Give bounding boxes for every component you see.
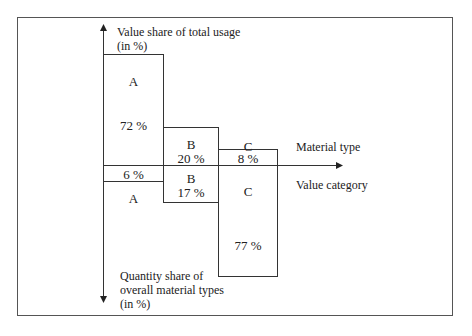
box-c-bottom-value: 77 % [218,238,278,253]
y-axis-bottom-label-line1: Quantity share of [120,269,203,283]
box-b-bottom-value: 17 % [163,185,219,200]
box-c-bottom-category: C [218,184,278,199]
arrow-up-icon [99,24,108,32]
y-axis-top-label-line1: Value share of total usage [117,25,240,39]
box-b-bottom-category: B [163,171,219,186]
y-axis-top-label-line2: (in %) [117,39,147,53]
x-axis-label-material-type: Material type [296,140,360,154]
box-a-value-share [103,54,164,166]
y-axis-bottom-label-line3: (in %) [120,297,150,311]
arrow-down-icon [99,296,108,304]
box-b-top-value: 20 % [163,151,219,166]
arrow-right-icon [336,161,344,170]
box-a-top-value: 72 % [103,118,164,133]
box-a-bottom-category: A [103,191,164,206]
y-axis-bottom-label-line2: overall material types [120,283,224,297]
box-c-quantity-share [218,165,278,277]
box-b-top-category: B [163,137,219,152]
box-a-bottom-value: 6 % [103,167,164,182]
x-axis-label-value-category: Value category [296,178,368,192]
box-a-top-category: A [103,74,164,89]
box-c-top-value: 8 % [218,151,278,166]
